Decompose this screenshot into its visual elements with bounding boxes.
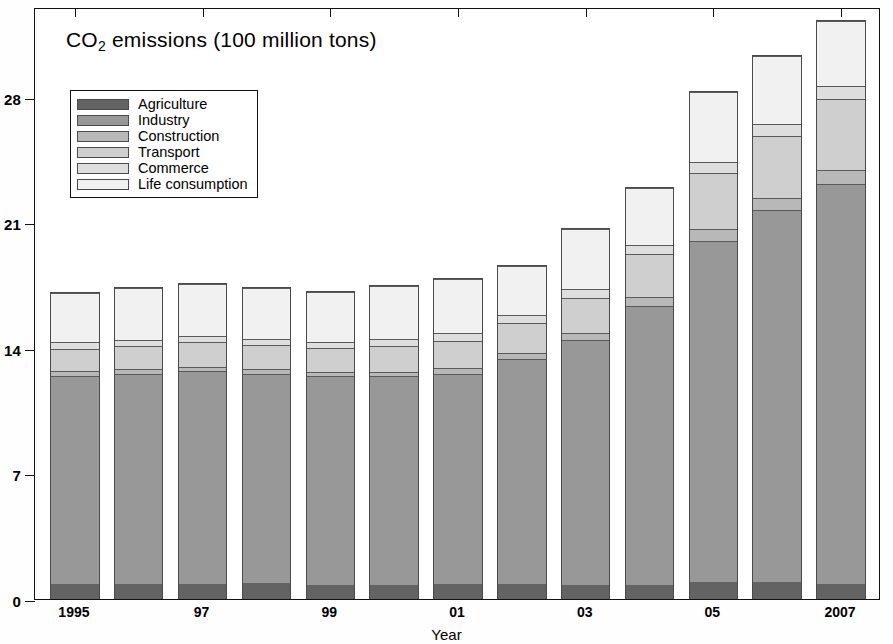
- bar-segment-commerce: [690, 162, 737, 173]
- y-axis-tick-label: 14: [4, 341, 21, 358]
- bar-segment-commerce: [753, 124, 800, 137]
- bar-segment-transport: [498, 323, 545, 353]
- bar-2000: [369, 285, 418, 599]
- bar-segment-agriculture: [690, 582, 737, 599]
- x-axis-tick-label: 99: [322, 604, 338, 620]
- legend-item-industry: Industry: [77, 112, 248, 128]
- bar-segment-industry: [817, 184, 864, 584]
- bar-segment-commerce: [817, 86, 864, 99]
- bar-segment-agriculture: [115, 584, 162, 599]
- bar-segment-commerce: [370, 339, 417, 346]
- bar-segment-life-consumption: [115, 288, 162, 340]
- x-axis-tick-label: 2007: [824, 604, 855, 620]
- bar-segment-construction: [690, 229, 737, 241]
- bar-segment-agriculture: [179, 584, 226, 599]
- legend-item-transport: Transport: [77, 144, 248, 160]
- y-axis-tick: [25, 224, 35, 225]
- bar-segment-construction: [817, 170, 864, 183]
- bar-1999: [306, 291, 355, 599]
- bar-segment-agriculture: [498, 584, 545, 599]
- bar-segment-industry: [753, 210, 800, 582]
- x-axis-tick-label: 1995: [58, 604, 89, 620]
- bar-2005: [689, 91, 738, 599]
- legend-item-label: Agriculture: [138, 96, 207, 112]
- legend-swatch-icon: [77, 163, 129, 174]
- bar-segment-life-consumption: [817, 21, 864, 86]
- chart-figure: 07142128 199597990103052007 Year CO2 emi…: [0, 0, 893, 644]
- legend-item-label: Life consumption: [138, 176, 248, 192]
- bar-segment-agriculture: [626, 585, 673, 599]
- chart-title: CO2 emissions (100 million tons): [66, 28, 377, 52]
- legend-item-label: Transport: [138, 144, 200, 160]
- bar-segment-construction: [753, 198, 800, 211]
- bar-segment-agriculture: [51, 584, 98, 599]
- x-axis-tick-label: 01: [449, 604, 465, 620]
- bar-segment-industry: [179, 371, 226, 584]
- bar-segment-agriculture: [307, 585, 354, 599]
- bar-2006: [752, 55, 801, 599]
- bar-segment-life-consumption: [626, 188, 673, 244]
- x-axis-tick-label: 03: [577, 604, 593, 620]
- legend-swatch-icon: [77, 99, 129, 110]
- bar-segment-industry: [626, 306, 673, 584]
- bar-segment-life-consumption: [179, 284, 226, 336]
- bar-segment-life-consumption: [434, 279, 481, 334]
- y-axis-tick-label: 7: [12, 467, 21, 484]
- bar-segment-agriculture: [562, 585, 609, 599]
- bar-segment-transport: [626, 254, 673, 297]
- bar-segment-transport: [51, 349, 98, 371]
- bar-segment-transport: [562, 298, 609, 334]
- bar-segment-life-consumption: [753, 56, 800, 123]
- bar-segment-commerce: [498, 315, 545, 323]
- y-axis-tick-label: 21: [4, 216, 21, 233]
- x-axis-tick-label: 05: [705, 604, 721, 620]
- bar-segment-transport: [115, 346, 162, 369]
- bar-segment-transport: [690, 173, 737, 229]
- bar-segment-transport: [307, 348, 354, 372]
- bar-segment-agriculture: [243, 583, 290, 599]
- bar-segment-transport: [243, 345, 290, 369]
- legend-item-construction: Construction: [77, 128, 248, 144]
- chart-title-subscript: 2: [98, 38, 106, 54]
- bar-segment-commerce: [562, 289, 609, 298]
- y-axis-tick: [25, 601, 35, 602]
- bar-segment-life-consumption: [370, 286, 417, 339]
- y-axis-tick: [25, 475, 35, 476]
- chart-legend: AgricultureIndustryConstructionTransport…: [70, 90, 258, 198]
- legend-item-label: Commerce: [138, 160, 209, 176]
- y-axis-tick-label: 28: [4, 90, 21, 107]
- bar-segment-industry: [243, 374, 290, 583]
- y-axis-tick-label: 0: [12, 593, 21, 610]
- bar-segment-transport: [434, 341, 481, 369]
- bar-segment-life-consumption: [51, 293, 98, 342]
- bar-segment-agriculture: [434, 584, 481, 599]
- bar-segment-life-consumption: [243, 288, 290, 339]
- x-axis-title: Year: [0, 626, 893, 643]
- bar-segment-construction: [626, 297, 673, 306]
- bar-segment-life-consumption: [498, 266, 545, 314]
- bar-segment-construction: [562, 333, 609, 340]
- x-axis-tick-label: 97: [194, 604, 210, 620]
- bar-segment-life-consumption: [307, 292, 354, 341]
- bar-segment-transport: [817, 99, 864, 170]
- bar-segment-agriculture: [817, 584, 864, 599]
- bar-segment-industry: [690, 241, 737, 582]
- bar-segment-transport: [179, 342, 226, 366]
- legend-item-label: Industry: [138, 112, 190, 128]
- legend-swatch-icon: [77, 147, 129, 158]
- legend-item-life-consumption: Life consumption: [77, 176, 248, 192]
- bar-2001: [433, 278, 482, 599]
- bar-segment-industry: [51, 376, 98, 584]
- bar-2007: [816, 20, 865, 599]
- bar-segment-industry: [370, 376, 417, 584]
- bar-segment-transport: [753, 136, 800, 198]
- bar-segment-industry: [115, 374, 162, 584]
- bar-segment-agriculture: [753, 582, 800, 599]
- legend-swatch-icon: [77, 115, 129, 126]
- bar-segment-life-consumption: [562, 229, 609, 289]
- legend-item-agriculture: Agriculture: [77, 96, 248, 112]
- bar-2003: [561, 228, 610, 599]
- bar-segment-commerce: [434, 333, 481, 340]
- bar-2004: [625, 187, 674, 599]
- bar-segment-agriculture: [370, 585, 417, 599]
